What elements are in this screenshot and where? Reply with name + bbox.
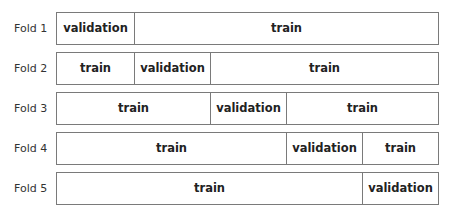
fold-bar: validation train (56, 12, 439, 45)
segment-train: train (286, 93, 438, 124)
segment-validation: validation (57, 13, 134, 44)
fold-label: Fold 2 (14, 52, 47, 85)
fold-bar: train validation (56, 172, 439, 205)
fold-label: Fold 5 (14, 172, 47, 205)
fold-bar: train validation train (56, 92, 439, 125)
segment-train: train (362, 133, 438, 164)
fold-bar: train validation train (56, 132, 439, 165)
segment-train: train (210, 53, 438, 84)
fold-row-5: Fold 5 train validation (0, 172, 456, 205)
fold-row-1: Fold 1 validation train (0, 12, 456, 45)
fold-row-3: Fold 3 train validation train (0, 92, 456, 125)
segment-train: train (57, 133, 286, 164)
segment-validation: validation (362, 173, 438, 204)
fold-row-4: Fold 4 train validation train (0, 132, 456, 165)
fold-label: Fold 1 (14, 12, 47, 45)
fold-bar: train validation train (56, 52, 439, 85)
fold-label: Fold 3 (14, 92, 47, 125)
segment-validation: validation (134, 53, 210, 84)
segment-train: train (57, 93, 210, 124)
segment-train: train (57, 53, 134, 84)
segment-validation: validation (286, 133, 362, 164)
segment-train: train (134, 13, 438, 44)
segment-train: train (57, 173, 362, 204)
segment-validation: validation (210, 93, 286, 124)
fold-label: Fold 4 (14, 132, 47, 165)
fold-row-2: Fold 2 train validation train (0, 52, 456, 85)
